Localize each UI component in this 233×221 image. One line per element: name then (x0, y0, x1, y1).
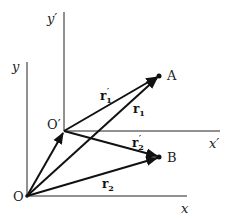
point-A (157, 74, 162, 79)
x-prime-axis-label: x′ (209, 136, 219, 151)
origin-O-dot (25, 194, 29, 198)
point-B (157, 155, 162, 160)
x-axis-label: x (181, 201, 189, 216)
point-B-label: B (167, 150, 177, 165)
y-axis-label: y (11, 59, 20, 74)
origin-O-label: O (13, 189, 24, 204)
y-prime-axis-label: y′ (46, 11, 57, 26)
vector-r1-prime-label: r1′ (100, 85, 112, 105)
origin-Oprime-label: O′ (47, 117, 61, 132)
vector-diagram: y x y′ x′ O O′ A B r1′ r1 r2′ r2 (0, 0, 233, 221)
vector-r2-label: r2 (102, 177, 114, 193)
vector-r1-label: r1 (133, 102, 145, 118)
point-A-label: A (166, 68, 177, 83)
vector-r2-prime-label: r2′ (132, 132, 144, 152)
